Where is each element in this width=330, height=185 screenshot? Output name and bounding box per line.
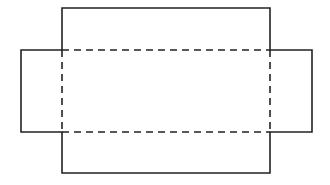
cut-outline	[21, 8, 312, 173]
fold-lines	[62, 50, 270, 132]
box-net-diagram	[0, 0, 330, 185]
